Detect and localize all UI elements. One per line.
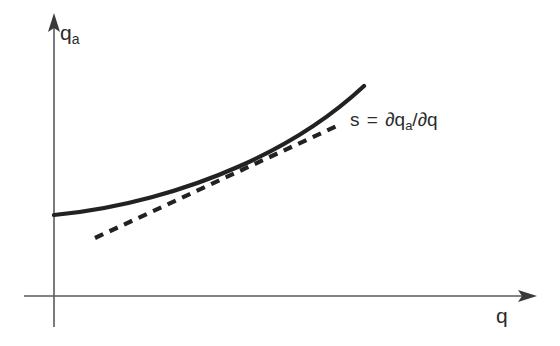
- y-axis-label-main: q: [60, 21, 72, 44]
- y-axis-label-subscript: a: [72, 31, 80, 47]
- x-axis-label: q: [496, 305, 508, 326]
- figure-canvas: qa q s = ∂qa/∂q: [0, 0, 560, 346]
- partial-symbol-denominator: ∂: [418, 109, 427, 130]
- tangent-line: [95, 124, 341, 238]
- slope-prefix: s =: [350, 109, 385, 130]
- partial-symbol-numerator: ∂: [385, 109, 394, 130]
- slope-numerator-subscript: a: [405, 118, 412, 133]
- slope-denominator-variable: q: [427, 109, 438, 130]
- y-axis-label: qa: [60, 22, 79, 43]
- slope-annotation: s = ∂qa/∂q: [350, 110, 438, 129]
- figure-graphics: [0, 0, 560, 346]
- adsorption-curve: [54, 86, 364, 215]
- slope-numerator-variable: q: [395, 109, 406, 130]
